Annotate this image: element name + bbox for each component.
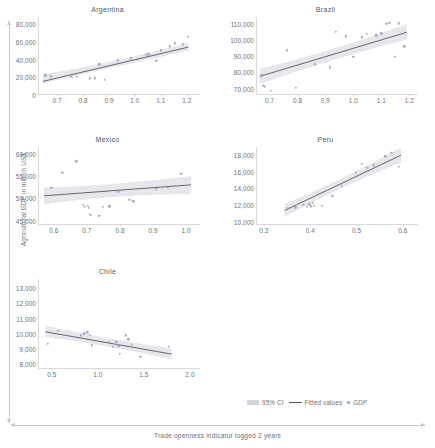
x-tick-mark bbox=[57, 94, 58, 96]
x-tick-label: 0.8 bbox=[78, 97, 87, 104]
x-tick-label: 0.3 bbox=[259, 227, 268, 234]
x-tick-label: 1.2 bbox=[405, 97, 414, 104]
plot-canvas-argentina bbox=[39, 17, 200, 94]
plot-area-chile: 8,0009,00010,00011,00012,00013,0000.51.0… bbox=[38, 279, 200, 369]
plot-area-brazil: 70,00080,00090,000100,000110,0000.70.80.… bbox=[256, 17, 418, 95]
confidence-interval-band bbox=[285, 148, 401, 217]
y-tick-label: 100,000 bbox=[230, 37, 254, 44]
chart-legend: 95% CI Fitted values GDP bbox=[247, 399, 367, 406]
x-tick-label: 1.2 bbox=[182, 97, 191, 104]
y-tick-label: 60,000 bbox=[16, 150, 36, 157]
x-tick-label: 0.8 bbox=[115, 227, 124, 234]
plot-area-mexico: 45,00050,00055,00060,0000.60.70.80.91.0 bbox=[38, 147, 200, 225]
y-tick-label: 10,000 bbox=[16, 330, 36, 337]
panel-argentina: Argentina020,00040,00060,00080,0000.70.8… bbox=[0, 6, 215, 128]
y-tick-label: 10,000 bbox=[234, 218, 254, 225]
plot-area-argentina: 020,00040,00060,00080,0000.70.80.91.01.1… bbox=[38, 17, 200, 95]
x-tick-label: 0.8 bbox=[293, 97, 302, 104]
x-tick-label: 1.1 bbox=[156, 97, 165, 104]
legend-label-ci: 95% CI bbox=[262, 399, 284, 406]
fitted-values-line bbox=[43, 47, 189, 81]
x-tick-label: 1.0 bbox=[93, 371, 102, 378]
fitted-line-swatch-icon bbox=[289, 402, 302, 403]
y-tick-label: 20,000 bbox=[16, 74, 36, 81]
x-tick-label: 0.7 bbox=[82, 227, 91, 234]
gdp-point-swatch-icon bbox=[347, 401, 350, 404]
y-tick-label: 13,000 bbox=[16, 285, 36, 292]
legend-item-gdp: GDP bbox=[347, 399, 367, 406]
x-tick-mark bbox=[353, 94, 354, 96]
x-tick-mark bbox=[264, 224, 265, 226]
panel-title-brazil: Brazil bbox=[218, 6, 433, 13]
x-tick-mark bbox=[87, 224, 88, 226]
x-tick-label: 0.7 bbox=[53, 97, 62, 104]
fitted-values-line bbox=[260, 32, 407, 76]
panel-title-argentina: Argentina bbox=[0, 6, 215, 13]
plot-area-peru: 10,00012,00014,00016,00018,0000.30.40.50… bbox=[256, 147, 418, 225]
x-tick-label: 1.0 bbox=[182, 227, 191, 234]
x-tick-mark bbox=[270, 94, 271, 96]
x-tick-mark bbox=[190, 368, 191, 370]
legend-label-gdp: GDP bbox=[353, 399, 367, 406]
y-tick-label: 18,000 bbox=[234, 152, 254, 159]
x-tick-label: 2.0 bbox=[185, 371, 194, 378]
fit-layer-mexico bbox=[39, 147, 200, 224]
y-tick-label: 8,000 bbox=[20, 361, 37, 368]
x-tick-label: 0.5 bbox=[352, 227, 361, 234]
panel-brazil: Brazil70,00080,00090,000100,000110,0000.… bbox=[218, 6, 433, 128]
x-tick-mark bbox=[298, 94, 299, 96]
plot-canvas-brazil bbox=[257, 17, 418, 94]
y-tick-label: 45,000 bbox=[16, 217, 36, 224]
panel-title-chile: Chile bbox=[0, 268, 215, 275]
y-tick-label: 14,000 bbox=[234, 185, 254, 192]
x-tick-mark bbox=[161, 94, 162, 96]
panel-mexico: Mexico45,00050,00055,00060,0000.60.70.80… bbox=[0, 136, 215, 258]
y-tick-label: 60,000 bbox=[16, 38, 36, 45]
y-tick-label: 11,000 bbox=[16, 315, 36, 322]
global-x-axis-arrow bbox=[14, 425, 422, 426]
y-tick-label: 80,000 bbox=[234, 69, 254, 76]
x-tick-mark bbox=[153, 224, 154, 226]
y-tick-label: 40,000 bbox=[16, 56, 36, 63]
y-tick-label: 110,000 bbox=[231, 21, 254, 28]
x-tick-mark bbox=[52, 368, 53, 370]
legend-label-fitted: Fitted values bbox=[305, 399, 343, 406]
x-tick-label: 1.5 bbox=[139, 371, 148, 378]
x-tick-mark bbox=[325, 94, 326, 96]
x-tick-mark bbox=[144, 368, 145, 370]
x-tick-mark bbox=[409, 94, 410, 96]
y-tick-label: 0 bbox=[32, 92, 36, 99]
x-tick-mark bbox=[357, 224, 358, 226]
fit-layer-argentina bbox=[39, 17, 200, 94]
x-tick-label: 0.9 bbox=[148, 227, 157, 234]
panel-chile: Chile8,0009,00010,00011,00012,00013,0000… bbox=[0, 268, 215, 404]
legend-item-ci: 95% CI bbox=[247, 399, 284, 406]
plot-canvas-chile bbox=[39, 279, 200, 368]
x-tick-label: 0.6 bbox=[49, 227, 58, 234]
y-tick-label: 70,000 bbox=[234, 85, 254, 92]
x-tick-mark bbox=[120, 224, 121, 226]
y-tick-label: 12,000 bbox=[16, 300, 36, 307]
x-tick-label: 1.1 bbox=[377, 97, 386, 104]
x-tick-label: 1.0 bbox=[130, 97, 139, 104]
panel-title-peru: Peru bbox=[218, 136, 433, 143]
panel-peru: Peru10,00012,00014,00016,00018,0000.30.4… bbox=[218, 136, 433, 258]
x-tick-label: 0.7 bbox=[265, 97, 274, 104]
y-tick-label: 50,000 bbox=[16, 195, 36, 202]
fit-layer-peru bbox=[257, 147, 418, 224]
x-tick-mark bbox=[187, 94, 188, 96]
x-tick-mark bbox=[135, 94, 136, 96]
x-tick-mark bbox=[54, 224, 55, 226]
y-tick-label: 16,000 bbox=[234, 168, 254, 175]
x-tick-label: 0.9 bbox=[104, 97, 113, 104]
x-tick-label: 0.5 bbox=[47, 371, 56, 378]
fit-layer-chile bbox=[39, 279, 200, 368]
x-tick-mark bbox=[83, 94, 84, 96]
fitted-values-line bbox=[285, 155, 401, 210]
y-tick-label: 80,000 bbox=[16, 21, 36, 28]
y-tick-label: 55,000 bbox=[16, 172, 36, 179]
ci-band-swatch-icon bbox=[247, 400, 259, 405]
x-tick-mark bbox=[186, 224, 187, 226]
y-tick-label: 9,000 bbox=[20, 346, 37, 353]
x-tick-mark bbox=[109, 94, 110, 96]
